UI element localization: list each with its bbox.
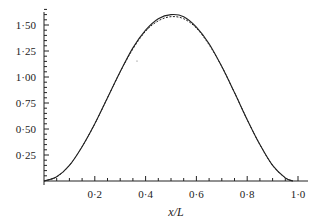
plot-area [44, 14, 293, 181]
axes: 0·20·40·60·81·00·250·500·751·001·251·50 [16, 9, 308, 200]
stray-dot [136, 60, 137, 61]
y-tick-label: 1·50 [16, 19, 37, 31]
x-tick-label: 0·6 [189, 188, 204, 200]
x-tick-label: 0·4 [138, 188, 153, 200]
y-tick-label: 1·25 [16, 45, 37, 57]
y-tick-label: 0·50 [16, 123, 37, 135]
x-axis-title: x/L [167, 205, 184, 219]
chart: 0·20·40·60·81·00·250·500·751·001·251·50 … [0, 0, 326, 224]
x-tick-label: 1·0 [291, 188, 306, 200]
x-tick-label: 0·2 [87, 188, 102, 200]
y-tick-label: 1·00 [16, 71, 37, 83]
dashed-curve [44, 17, 293, 181]
x-tick-label: 0·8 [240, 188, 255, 200]
y-tick-label: 0·75 [16, 97, 37, 109]
y-tick-label: 0·25 [16, 149, 37, 161]
solid-curve [44, 14, 293, 181]
